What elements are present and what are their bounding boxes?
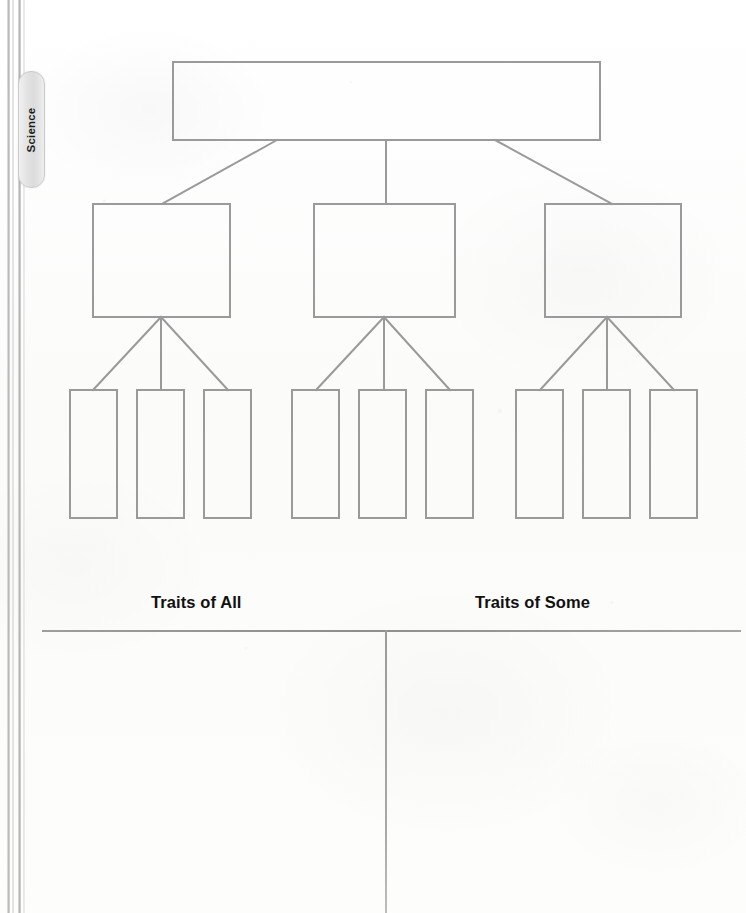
subject-tab-label: Science xyxy=(26,107,38,152)
traits-column-heading-some: Traits of Some xyxy=(475,593,590,612)
organizer-bottom-box-4[interactable] xyxy=(292,390,339,518)
organizer-bottom-box-8[interactable] xyxy=(583,390,630,518)
spine-line-2 xyxy=(12,0,14,913)
organizer-bottom-box-5[interactable] xyxy=(359,390,406,518)
connector-middle-1-to-bottom-3 xyxy=(161,317,228,390)
organizer-bottom-box-2[interactable] xyxy=(137,390,184,518)
connector-top-to-middle-1 xyxy=(162,140,277,204)
connector-middle-3-to-bottom-7 xyxy=(540,317,607,390)
hierarchy-organizer-diagram xyxy=(0,0,746,560)
organizer-bottom-box-1[interactable] xyxy=(70,390,117,518)
organizer-bottom-box-7[interactable] xyxy=(516,390,563,518)
organizer-middle-box-3[interactable] xyxy=(545,204,681,317)
organizer-bottom-box-6[interactable] xyxy=(426,390,473,518)
traits-column-heading-all: Traits of All xyxy=(151,593,242,612)
connector-middle-2-to-bottom-4 xyxy=(316,317,384,390)
spine-line-1 xyxy=(7,0,10,913)
traits-table: Traits of All Traits of Some xyxy=(0,560,746,913)
traits-cell-some[interactable] xyxy=(387,632,741,913)
organizer-middle-box-2[interactable] xyxy=(314,204,455,317)
organizer-middle-box-1[interactable] xyxy=(93,204,230,317)
traits-cell-all[interactable] xyxy=(42,632,385,913)
worksheet-page: Science xyxy=(0,0,746,913)
organizer-bottom-box-9[interactable] xyxy=(650,390,697,518)
connector-middle-2-to-bottom-6 xyxy=(384,317,450,390)
connector-top-to-middle-3 xyxy=(495,140,612,204)
connector-middle-1-to-bottom-1 xyxy=(93,317,161,390)
organizer-top-box[interactable] xyxy=(173,62,600,140)
subject-tab-science[interactable]: Science xyxy=(18,71,45,188)
connector-middle-3-to-bottom-9 xyxy=(607,317,674,390)
organizer-bottom-box-3[interactable] xyxy=(204,390,251,518)
